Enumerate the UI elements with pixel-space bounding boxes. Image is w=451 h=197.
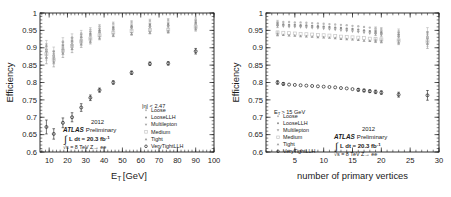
annotation-integral-icon: ∫ bbox=[63, 134, 68, 145]
y-tick-label: 0.6 bbox=[252, 148, 263, 157]
data-point bbox=[293, 83, 296, 86]
y-tick-label: 0.75 bbox=[22, 96, 37, 105]
data-point bbox=[345, 30, 348, 33]
x-tick-label: 80 bbox=[173, 156, 181, 165]
x-tick-label: 20 bbox=[63, 156, 71, 165]
annotation-atlas: ATLASPreliminary bbox=[333, 133, 388, 140]
data-point bbox=[351, 30, 354, 33]
annotation-atlas-text: ATLAS bbox=[62, 126, 85, 133]
series-multilepton bbox=[45, 23, 197, 61]
legend-marker-multilepton bbox=[277, 129, 280, 131]
y-tick-label: 0.75 bbox=[248, 96, 263, 105]
data-point bbox=[334, 28, 337, 31]
y-tick-label: 0.9 bbox=[252, 43, 263, 52]
data-point bbox=[426, 42, 429, 45]
legend-label-tight: Tight bbox=[151, 136, 163, 142]
data-point bbox=[322, 25, 324, 27]
x-tick-label: 50 bbox=[118, 156, 126, 165]
data-point bbox=[317, 22, 319, 24]
data-point bbox=[316, 27, 319, 30]
data-point bbox=[351, 25, 353, 27]
data-point bbox=[374, 27, 376, 29]
data-point bbox=[288, 21, 290, 23]
legend-label-medium: Medium bbox=[283, 134, 303, 140]
series-loose bbox=[45, 17, 197, 55]
data-point bbox=[357, 25, 359, 27]
data-point bbox=[322, 85, 325, 88]
annotation-cme: √s = 8 TeV Z→ ee bbox=[334, 151, 377, 157]
data-point bbox=[299, 24, 301, 26]
y-tick-label: 0.6 bbox=[26, 148, 37, 157]
data-point bbox=[328, 23, 330, 25]
legend-marker-medium bbox=[145, 131, 148, 134]
data-point bbox=[346, 24, 348, 26]
y-tick-label: 0.7 bbox=[26, 113, 37, 122]
data-point bbox=[89, 29, 91, 31]
legend-marker-loose bbox=[145, 109, 147, 111]
data-point bbox=[80, 32, 82, 34]
x-axis-title-sub: T bbox=[117, 175, 121, 182]
y-axis-title: Efficiency bbox=[230, 62, 241, 102]
data-point bbox=[368, 32, 371, 35]
data-point bbox=[322, 23, 324, 25]
legend-marker-multilepton bbox=[145, 124, 148, 126]
y-tick-label: 1 bbox=[33, 9, 37, 18]
data-point bbox=[282, 23, 284, 25]
chart-panel-efficiency-vs-et: 0.60.650.70.750.80.850.90.95110203040506… bbox=[0, 0, 226, 197]
data-point bbox=[288, 26, 291, 29]
annotation-lumi-exponent: -1 bbox=[106, 135, 110, 140]
data-point bbox=[339, 87, 342, 90]
y-axis-title: Efficiency bbox=[4, 62, 15, 102]
data-point bbox=[311, 25, 313, 27]
data-point bbox=[368, 39, 371, 42]
data-point bbox=[328, 26, 330, 28]
data-point bbox=[288, 24, 290, 26]
legend-marker-loosellh bbox=[277, 122, 279, 124]
x-tick-label: 100 bbox=[208, 156, 221, 165]
data-point bbox=[316, 85, 319, 88]
legend-label-multilepton: Multilepton bbox=[283, 127, 309, 133]
data-point bbox=[357, 38, 360, 41]
data-point bbox=[305, 24, 307, 26]
data-point bbox=[282, 21, 284, 23]
data-point bbox=[299, 84, 302, 87]
legend-marker-loose bbox=[277, 115, 279, 117]
series-verytightllh bbox=[276, 81, 429, 100]
series-loosellh bbox=[45, 21, 197, 60]
annotation-lumi: L dt = 20.3 fb-1 bbox=[69, 135, 110, 142]
data-point bbox=[334, 23, 336, 25]
y-tick-label: 0.9 bbox=[26, 43, 37, 52]
data-point bbox=[351, 28, 353, 30]
data-point bbox=[167, 19, 169, 21]
annotation-cme: √s = 8 TeV Z→ ee bbox=[63, 144, 106, 150]
legend-label-verytightllh: VeryTightLLH bbox=[151, 143, 184, 149]
legend-label-loosellh: LooseLLH bbox=[283, 120, 308, 126]
legend-label-loose: Loose bbox=[151, 107, 166, 113]
data-point bbox=[334, 86, 337, 89]
plot-efficiency-vs-npv: 0.60.650.70.750.80.850.90.95151015202530… bbox=[226, 0, 451, 197]
x-tick-label: 60 bbox=[137, 156, 145, 165]
plot-efficiency-vs-et: 0.60.650.70.750.80.850.90.95110203040506… bbox=[0, 0, 226, 197]
y-tick-label: 0.85 bbox=[248, 61, 263, 70]
data-point bbox=[340, 24, 342, 26]
y-tick-label: 0.65 bbox=[22, 130, 37, 139]
data-point bbox=[288, 83, 291, 86]
data-point bbox=[282, 33, 285, 36]
data-point bbox=[328, 36, 331, 39]
y-tick-label: 0.8 bbox=[26, 78, 37, 87]
x-axis-title: number of primary vertices bbox=[297, 170, 408, 181]
data-point bbox=[311, 22, 313, 24]
data-point bbox=[305, 84, 308, 87]
data-point bbox=[340, 27, 342, 29]
x-tick-label: 40 bbox=[100, 156, 108, 165]
legend-label-tight: Tight bbox=[283, 141, 295, 147]
data-point bbox=[322, 36, 325, 39]
data-point bbox=[363, 32, 366, 35]
data-point bbox=[346, 27, 348, 29]
data-point bbox=[345, 87, 348, 90]
annotation-integral-icon: ∫ bbox=[334, 141, 339, 152]
data-point bbox=[149, 24, 151, 26]
data-point bbox=[288, 34, 291, 37]
annotation-preliminary: Preliminary bbox=[357, 133, 388, 140]
x-tick-label: 70 bbox=[155, 156, 163, 165]
